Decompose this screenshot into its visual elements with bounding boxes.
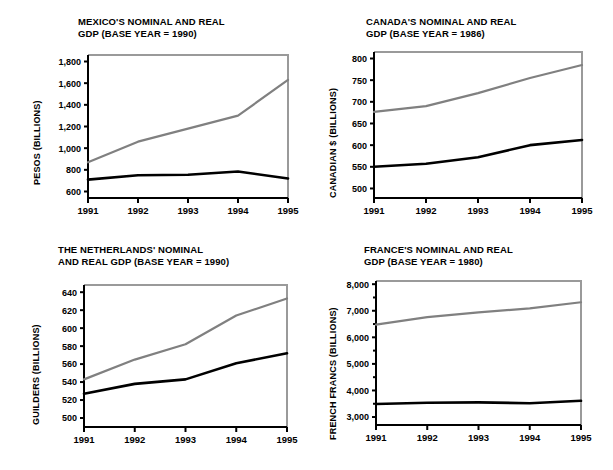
svg-text:7,000: 7,000: [346, 306, 369, 316]
chart-panel-netherlands: THE NETHERLANDS' NOMINAL AND REAL GDP (B…: [0, 235, 306, 470]
svg-text:800: 800: [66, 165, 81, 175]
svg-text:640: 640: [62, 288, 77, 298]
svg-text:4,000: 4,000: [346, 386, 369, 396]
svg-text:1993: 1993: [177, 205, 198, 216]
svg-text:1,200: 1,200: [58, 122, 81, 132]
svg-text:1,800: 1,800: [58, 57, 81, 67]
plot-mexico: 6008001,0001,2001,4001,6001,800199119921…: [0, 0, 306, 235]
svg-text:6,000: 6,000: [346, 333, 369, 343]
svg-text:1992: 1992: [127, 205, 148, 216]
svg-text:3,000: 3,000: [346, 412, 369, 422]
svg-text:1991: 1991: [73, 434, 95, 445]
svg-text:600: 600: [62, 324, 77, 334]
svg-text:600: 600: [352, 141, 367, 151]
svg-text:1992: 1992: [124, 434, 145, 445]
svg-text:600: 600: [66, 187, 81, 197]
chart-panel-canada: CANADA'S NOMINAL AND REAL GDP (BASE YEAR…: [306, 0, 612, 235]
svg-text:1993: 1993: [467, 205, 488, 216]
svg-text:560: 560: [62, 359, 77, 369]
svg-text:1994: 1994: [519, 432, 541, 443]
svg-text:1992: 1992: [417, 432, 438, 443]
svg-text:650: 650: [352, 119, 367, 129]
svg-text:500: 500: [352, 184, 367, 194]
svg-text:1991: 1991: [365, 432, 387, 443]
figure-canvas: MEXICO'S NOMINAL AND REAL GDP (BASE YEAR…: [0, 0, 613, 470]
svg-text:700: 700: [352, 97, 367, 107]
svg-text:620: 620: [62, 306, 77, 316]
chart-panel-france: FRANCE'S NOMINAL AND REAL GDP (BASE YEAR…: [306, 235, 612, 470]
plot-france: 3,0004,0005,0006,0007,0008,0001991199219…: [306, 235, 612, 470]
svg-text:1993: 1993: [175, 434, 196, 445]
svg-text:500: 500: [62, 413, 77, 423]
svg-text:1992: 1992: [415, 205, 436, 216]
svg-text:800: 800: [352, 54, 367, 64]
svg-text:5,000: 5,000: [346, 359, 369, 369]
svg-text:8,000: 8,000: [346, 280, 369, 290]
svg-text:1,400: 1,400: [58, 100, 81, 110]
svg-text:1994: 1994: [227, 205, 249, 216]
svg-text:550: 550: [352, 162, 367, 172]
plot-netherlands: 5005205405605806006206401991199219931994…: [0, 235, 306, 470]
plot-canada: 5005506006507007508001991199219931994199…: [306, 0, 612, 235]
svg-text:1,600: 1,600: [58, 79, 81, 89]
svg-text:520: 520: [62, 395, 77, 405]
svg-text:580: 580: [62, 342, 77, 352]
svg-text:1991: 1991: [363, 205, 385, 216]
chart-panel-mexico: MEXICO'S NOMINAL AND REAL GDP (BASE YEAR…: [0, 0, 306, 235]
svg-text:750: 750: [352, 76, 367, 86]
svg-text:1995: 1995: [277, 205, 299, 216]
svg-text:1994: 1994: [226, 434, 248, 445]
svg-text:1,000: 1,000: [58, 144, 81, 154]
svg-text:540: 540: [62, 377, 77, 387]
svg-text:1993: 1993: [468, 432, 489, 443]
svg-text:1995: 1995: [571, 205, 593, 216]
svg-text:1991: 1991: [77, 205, 99, 216]
svg-text:1994: 1994: [519, 205, 541, 216]
svg-text:1995: 1995: [276, 434, 298, 445]
svg-text:1995: 1995: [570, 432, 592, 443]
